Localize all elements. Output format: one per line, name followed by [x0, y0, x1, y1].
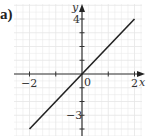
x-tick-label-neg2: −2: [21, 77, 37, 90]
y-tick-label-neg3: −3: [66, 109, 82, 122]
origin-label: 0: [84, 76, 91, 89]
y-tick-label-4: 4: [73, 13, 80, 26]
x-tick-label-2: 2: [131, 77, 138, 90]
graph-figure: y x 0 −2 2 4 −3: [0, 0, 146, 136]
x-axis-label: x: [139, 76, 146, 89]
